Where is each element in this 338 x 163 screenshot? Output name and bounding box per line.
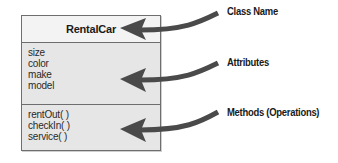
method-item: checkIn( )	[28, 120, 160, 131]
method-item: rentOut( )	[28, 109, 160, 120]
class-name: RentalCar	[66, 23, 116, 35]
method-item: service( )	[28, 131, 160, 142]
attribute-item: size	[28, 47, 160, 58]
attribute-item: color	[28, 58, 160, 69]
callout-label-attributes: Attributes	[227, 56, 269, 68]
uml-class-box: RentalCar size color make model rentOut(…	[21, 15, 161, 151]
class-name-section: RentalCar	[22, 16, 160, 43]
methods-section: rentOut( ) checkIn( ) service( )	[22, 105, 160, 151]
attribute-item: model	[28, 80, 160, 91]
attributes-section: size color make model	[22, 43, 160, 105]
callout-label-methods: Methods (Operations)	[227, 106, 319, 118]
callout-label-class-name: Class Name	[227, 5, 278, 17]
attribute-item: make	[28, 69, 160, 80]
